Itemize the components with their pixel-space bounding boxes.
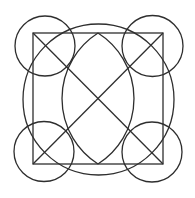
lens-right-arc (98, 33, 134, 164)
geometric-diagram (0, 0, 195, 198)
lens-left-arc (62, 33, 98, 164)
